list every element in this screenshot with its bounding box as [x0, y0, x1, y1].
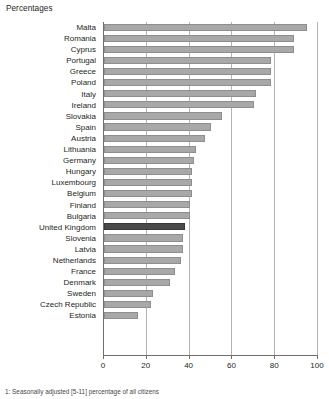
- bar: [104, 312, 138, 319]
- bar: [104, 79, 271, 86]
- category-label: Lithuania: [0, 144, 99, 155]
- bar: [104, 223, 185, 230]
- bar-row: [103, 188, 317, 199]
- bar: [104, 245, 183, 252]
- bar-row: [103, 255, 317, 266]
- category-label: Poland: [0, 77, 99, 88]
- category-label: Luxembourg: [0, 177, 99, 188]
- bar: [104, 57, 271, 64]
- bar-row: [103, 33, 317, 44]
- category-label: Bulgaria: [0, 211, 99, 222]
- bar-row: [103, 122, 317, 133]
- bar-row: [103, 277, 317, 288]
- bar-row: [103, 211, 317, 222]
- bar-row: [103, 133, 317, 144]
- y-axis-line: [103, 22, 104, 355]
- bar: [104, 279, 170, 286]
- category-label: Netherlands: [0, 255, 99, 266]
- category-label: Denmark: [0, 277, 99, 288]
- bar: [104, 101, 254, 108]
- bar: [104, 35, 294, 42]
- category-label: Slovenia: [0, 233, 99, 244]
- category-label: Czech Republic: [0, 299, 99, 310]
- category-label: Austria: [0, 133, 99, 144]
- category-label: Germany: [0, 155, 99, 166]
- bar: [104, 212, 190, 219]
- category-label: France: [0, 266, 99, 277]
- bar: [104, 168, 192, 175]
- category-label: Portugal: [0, 55, 99, 66]
- x-tick: [146, 355, 147, 359]
- bar: [104, 135, 205, 142]
- category-label: Hungary: [0, 166, 99, 177]
- category-label: Sweden: [0, 288, 99, 299]
- bar-row: [103, 155, 317, 166]
- bar-row: [103, 244, 317, 255]
- bar-row: [103, 44, 317, 55]
- bar-row: [103, 89, 317, 100]
- bar-row: [103, 55, 317, 66]
- bar: [104, 257, 181, 264]
- bar: [104, 201, 190, 208]
- category-axis-labels: MaltaRomaniaCyprusPortugalGreecePolandIt…: [0, 22, 99, 355]
- category-label: Finland: [0, 200, 99, 211]
- x-tick-label: 80: [270, 361, 279, 370]
- bar-row: [103, 144, 317, 155]
- x-tick-label: 60: [227, 361, 236, 370]
- x-tick-label: 40: [184, 361, 193, 370]
- category-label: Greece: [0, 66, 99, 77]
- bar: [104, 46, 294, 53]
- category-label: Cyprus: [0, 44, 99, 55]
- chart-footnote: 1: Seasonally adjusted [5-11] percentage…: [5, 388, 159, 395]
- category-label: Spain: [0, 122, 99, 133]
- x-tick-label: 100: [310, 361, 323, 370]
- category-label: United Kingdom: [0, 222, 99, 233]
- bar-row: [103, 233, 317, 244]
- category-label: Latvia: [0, 244, 99, 255]
- bar-rows: [103, 22, 317, 355]
- bar: [104, 179, 192, 186]
- bar: [104, 268, 175, 275]
- x-tick-label: 0: [101, 361, 105, 370]
- bar-row: [103, 66, 317, 77]
- bar-row: [103, 111, 317, 122]
- bar-row: [103, 100, 317, 111]
- bar: [104, 301, 151, 308]
- bar: [104, 123, 211, 130]
- category-label: Belgium: [0, 188, 99, 199]
- category-label: Estonia: [0, 310, 99, 321]
- gridline: [317, 22, 318, 355]
- x-tick: [317, 355, 318, 359]
- bar-chart: Percentages MaltaRomaniaCyprusPortugalGr…: [0, 0, 329, 399]
- bar-row: [103, 200, 317, 211]
- bar-row: [103, 299, 317, 310]
- category-label: Slovakia: [0, 111, 99, 122]
- bar: [104, 112, 222, 119]
- x-axis-line: [103, 355, 318, 356]
- bar-row: [103, 22, 317, 33]
- category-label: Romania: [0, 33, 99, 44]
- bar-row: [103, 77, 317, 88]
- x-tick: [274, 355, 275, 359]
- category-label: Ireland: [0, 100, 99, 111]
- bar-row: [103, 177, 317, 188]
- bar: [104, 146, 196, 153]
- bar-row: [103, 288, 317, 299]
- bar: [104, 90, 256, 97]
- category-label: Malta: [0, 22, 99, 33]
- x-tick: [189, 355, 190, 359]
- category-label: Italy: [0, 89, 99, 100]
- x-tick: [103, 355, 104, 359]
- x-tick: [231, 355, 232, 359]
- plot-area: 020406080100: [103, 22, 317, 355]
- bar: [104, 190, 192, 197]
- bar: [104, 24, 307, 31]
- bar-row: [103, 222, 317, 233]
- bar: [104, 157, 194, 164]
- bar: [104, 234, 183, 241]
- chart-title: Percentages: [6, 4, 53, 13]
- bar: [104, 68, 271, 75]
- bar-row: [103, 166, 317, 177]
- x-tick-label: 20: [141, 361, 150, 370]
- bar-row: [103, 310, 317, 321]
